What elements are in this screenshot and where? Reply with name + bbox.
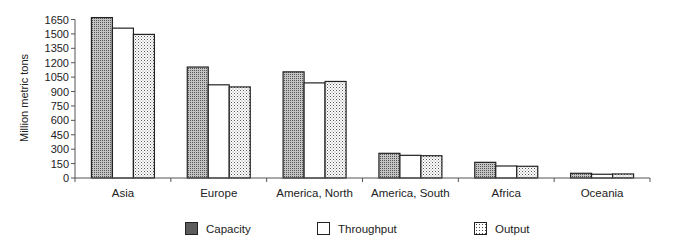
bars (91, 18, 633, 178)
bar-output-asia (133, 34, 154, 178)
bar-chart: Million metric tons 01503004506007509001… (0, 0, 674, 222)
output-swatch-icon (474, 222, 487, 235)
y-tick-label: 900 (51, 86, 69, 98)
y-tick-label: 450 (51, 129, 69, 141)
bar-throughput-america-south (400, 155, 421, 178)
bar-capacity-america-south (379, 153, 400, 178)
y-axis-label: Million metric tons (18, 53, 30, 142)
y-tick-label: 1500 (45, 28, 69, 40)
bar-capacity-africa (475, 162, 496, 178)
y-tick-label: 150 (51, 158, 69, 170)
x-category-label: Africa (492, 187, 522, 199)
x-category-label: Oceania (581, 187, 624, 199)
bar-output-oceania (613, 174, 634, 178)
y-tick-label: 1200 (45, 57, 69, 69)
x-category-label: America, South (371, 187, 450, 199)
y-tick-label: 600 (51, 114, 69, 126)
y-tick-label: 300 (51, 143, 69, 155)
y-tick-label: 0 (63, 172, 69, 184)
bar-capacity-asia (91, 18, 112, 178)
y-tick-label: 1350 (45, 42, 69, 54)
x-axis: AsiaEuropeAmerica, NorthAmerica, SouthAf… (75, 178, 650, 199)
bar-capacity-europe (187, 67, 208, 178)
x-category-label: America, North (276, 187, 353, 199)
legend-label: Throughput (338, 223, 397, 235)
y-tick-label: 750 (51, 100, 69, 112)
bar-capacity-america-north (283, 72, 304, 178)
bar-throughput-europe (208, 85, 229, 178)
y-axis: 015030045060075090010501200135015001650 (45, 14, 75, 185)
bar-capacity-oceania (571, 173, 592, 178)
bar-throughput-africa (496, 166, 517, 178)
bar-throughput-america-north (304, 83, 325, 178)
bar-throughput-oceania (592, 174, 613, 178)
y-tick-label: 1050 (45, 71, 69, 83)
bar-output-europe (229, 87, 250, 178)
legend-item-capacity: Capacity (185, 222, 251, 235)
legend-item-output: Output (474, 222, 530, 235)
bar-output-africa (517, 166, 538, 178)
y-tick-label: 1650 (45, 14, 69, 26)
throughput-swatch-icon (317, 222, 330, 235)
legend: Capacity Throughput Output (0, 222, 674, 242)
legend-label: Output (495, 223, 530, 235)
bar-output-america-south (421, 156, 442, 178)
bar-throughput-asia (112, 28, 133, 178)
x-category-label: Asia (112, 187, 135, 199)
bar-output-america-north (325, 81, 346, 178)
capacity-swatch-icon (185, 222, 198, 235)
legend-item-throughput: Throughput (317, 222, 397, 235)
x-category-label: Europe (200, 187, 237, 199)
legend-label: Capacity (206, 223, 251, 235)
